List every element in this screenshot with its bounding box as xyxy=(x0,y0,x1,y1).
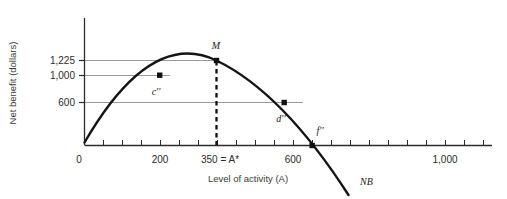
point-label-c: c'' xyxy=(152,86,162,97)
x-tick-label-350-astar: 350 = A* xyxy=(201,154,239,165)
point-label-M: M xyxy=(211,40,221,51)
x-tick-marks xyxy=(104,140,484,146)
x-tick-label-0: 0 xyxy=(76,154,82,165)
x-axis-title: Level of activity (A) xyxy=(208,173,288,184)
y-tick-label-600: 600 xyxy=(58,97,75,108)
chart-plot-area: 1,225 1,000 600 0 200 350 = A* 600 1,000… xyxy=(0,0,507,199)
x-tick-label-200: 200 xyxy=(152,154,169,165)
point-marker-M xyxy=(214,58,219,63)
y-tick-marks xyxy=(79,61,85,103)
net-benefit-chart-figure: 1,225 1,000 600 0 200 350 = A* 600 1,000… xyxy=(0,0,507,199)
point-marker-d xyxy=(282,100,287,105)
point-marker-f xyxy=(310,143,315,148)
point-label-d: d'' xyxy=(276,113,286,124)
point-marker-c xyxy=(157,73,162,78)
curve-label-nb: NB xyxy=(359,176,373,187)
x-tick-label-600: 600 xyxy=(285,154,302,165)
x-tick-label-1000: 1,000 xyxy=(432,154,457,165)
y-axis-title: Net benefit (dollars) xyxy=(7,42,18,125)
y-tick-label-1225: 1,225 xyxy=(50,55,75,66)
y-tick-label-1000: 1,000 xyxy=(50,70,75,81)
point-label-f: f'' xyxy=(316,125,324,136)
